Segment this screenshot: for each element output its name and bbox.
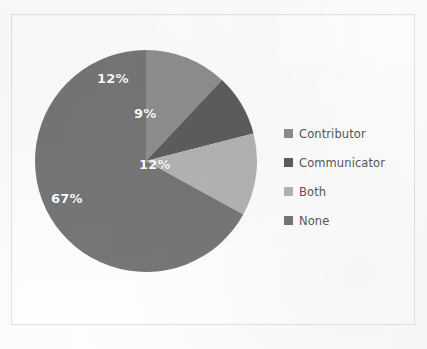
slice-value-label-communicator: 9%	[134, 106, 156, 121]
slice-value-label-none: 67%	[51, 191, 83, 206]
legend-swatch-icon	[284, 187, 293, 196]
legend-item-label: None	[299, 214, 329, 228]
legend-item-communicator[interactable]: Communicator	[284, 148, 408, 177]
legend-item-label: Both	[299, 185, 326, 199]
slice-value-label-both: 12%	[139, 157, 171, 172]
pie-chart-screenshot: 12%9%12%67% ContributorCommunicatorBothN…	[0, 0, 427, 349]
legend-item-contributor[interactable]: Contributor	[284, 119, 408, 148]
plot-area: 12%9%12%67% ContributorCommunicatorBothN…	[12, 15, 414, 324]
legend-swatch-icon	[284, 158, 293, 167]
legend-item-none[interactable]: None	[284, 206, 408, 235]
legend-swatch-icon	[284, 129, 293, 138]
legend-swatch-icon	[284, 216, 293, 225]
slice-value-label-contributor: 12%	[97, 71, 129, 86]
legend-item-label: Contributor	[299, 127, 366, 141]
chart-frame: 12%9%12%67% ContributorCommunicatorBothN…	[11, 14, 415, 325]
legend-item-label: Communicator	[299, 156, 385, 170]
chart-legend: ContributorCommunicatorBothNone	[284, 119, 408, 235]
legend-item-both[interactable]: Both	[284, 177, 408, 206]
pie-graphic: 12%9%12%67%	[34, 49, 258, 273]
